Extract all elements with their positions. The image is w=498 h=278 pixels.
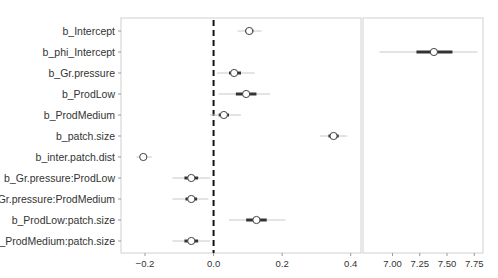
point-estimate: [220, 111, 227, 118]
y-axis-labels: b_Interceptb_phi_Interceptb_Gr.pressureb…: [0, 25, 121, 247]
point-estimate: [253, 216, 260, 223]
y-label: b_patch.size: [56, 130, 115, 142]
x-tick-label: 7.00: [383, 258, 402, 269]
y-label: b_ProdMedium: [44, 109, 115, 121]
panel-main: −0.20.00.20.4: [121, 18, 361, 269]
point-estimate: [188, 174, 195, 181]
panel-phi: 7.007.257.507.75: [363, 18, 484, 269]
point-estimate: [140, 153, 147, 160]
interval-chart: −0.20.00.20.4 7.007.257.507.75 b_Interce…: [0, 0, 498, 278]
y-label: b_phi_Intercept: [43, 46, 115, 58]
x-tick-label: −0.2: [136, 258, 155, 269]
point-estimate: [430, 48, 437, 55]
point-estimate: [188, 237, 195, 244]
y-label: b_ProdMedium:patch.size: [0, 235, 115, 247]
x-tick-label: 0.2: [276, 258, 289, 269]
y-label: b_Intercept: [62, 25, 115, 37]
point-estimate: [246, 27, 253, 34]
point-estimate: [188, 195, 195, 202]
x-tick-label: 0.0: [207, 258, 220, 269]
point-estimate: [243, 90, 250, 97]
point-estimate: [231, 69, 238, 76]
x-tick-label: 7.75: [465, 258, 484, 269]
x-tick-label: 7.25: [410, 258, 429, 269]
y-label: b_inter.patch.dist: [36, 151, 115, 163]
y-label: b_Gr.pressure:ProdLow: [4, 172, 115, 184]
point-estimate: [330, 132, 337, 139]
y-label: b_Gr.pressure: [48, 67, 115, 79]
y-label: b_ProdLow:patch.size: [12, 214, 115, 226]
x-tick-label: 7.50: [438, 258, 457, 269]
y-label: b_ProdLow: [62, 88, 116, 100]
x-tick-label: 0.4: [344, 258, 357, 269]
y-label: b_Gr.pressure:ProdMedium: [0, 193, 115, 205]
